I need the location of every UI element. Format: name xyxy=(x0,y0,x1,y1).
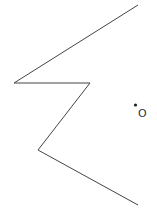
point-o-dot xyxy=(134,103,137,106)
zigzag-polyline xyxy=(14,5,138,205)
point-o-label: O xyxy=(138,107,147,120)
geometry-diagram: O xyxy=(0,0,157,216)
